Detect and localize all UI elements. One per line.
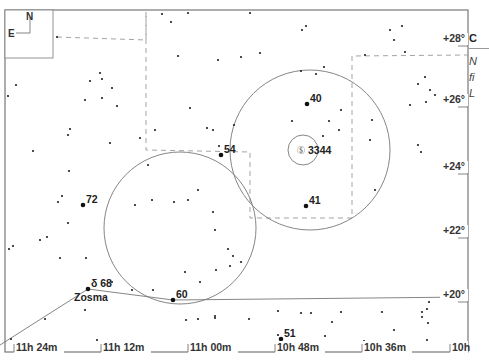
side-panel-title: C (469, 30, 489, 46)
star (417, 144, 419, 146)
star (259, 52, 261, 54)
star (305, 25, 307, 27)
star (434, 94, 436, 96)
star (12, 245, 14, 247)
star (68, 170, 70, 172)
star (393, 39, 395, 41)
star (322, 135, 324, 137)
star (46, 236, 48, 238)
star (240, 56, 242, 58)
star (233, 124, 235, 126)
star (131, 289, 133, 291)
star (84, 99, 86, 101)
x-tick-label: 11h 24m (16, 341, 57, 353)
star (56, 36, 58, 38)
side-panel-line: fi (469, 69, 489, 85)
star (101, 97, 103, 99)
compass-east: E (8, 28, 15, 39)
x-tick-label: 10h (452, 341, 470, 353)
star (340, 109, 342, 111)
x-tick-label: 11h 00m (190, 341, 231, 353)
star (227, 248, 229, 250)
star (67, 134, 69, 136)
star (173, 201, 175, 203)
star (184, 271, 186, 273)
star (154, 129, 156, 131)
star (381, 311, 383, 313)
star (96, 339, 98, 341)
star (417, 83, 419, 85)
star (84, 309, 86, 311)
star (338, 129, 340, 131)
labeled-object: Ⓢ3344 (297, 144, 332, 156)
star (310, 312, 312, 314)
star (212, 211, 214, 213)
star (61, 195, 63, 197)
star (300, 70, 302, 72)
side-panel: C N fi L (469, 30, 489, 101)
star (206, 127, 208, 129)
star (10, 338, 12, 340)
star (89, 80, 91, 82)
star (7, 95, 9, 97)
side-panel-line: L (469, 85, 489, 101)
x-tick-label: 11h 12m (103, 341, 144, 353)
star (69, 128, 71, 130)
object-label: 40 (310, 92, 322, 104)
star (15, 84, 17, 86)
star (331, 321, 333, 323)
compass-north: N (26, 11, 33, 22)
star (426, 308, 428, 310)
star (151, 199, 153, 201)
star (199, 281, 201, 283)
star (81, 203, 86, 208)
star (404, 51, 406, 53)
star (185, 319, 187, 321)
star (152, 289, 154, 291)
star (177, 55, 179, 57)
star (197, 189, 199, 191)
star (219, 153, 224, 158)
star (212, 129, 214, 131)
star (428, 301, 430, 303)
star (429, 89, 431, 91)
star (217, 59, 219, 61)
star (305, 102, 310, 107)
star (240, 261, 242, 263)
star (99, 72, 101, 74)
star (401, 25, 403, 27)
star (421, 311, 423, 313)
divider (469, 48, 489, 49)
y-tick-label: +22° (443, 224, 465, 236)
star (424, 76, 426, 78)
star (187, 12, 189, 14)
x-tick-label: 10h 36m (364, 341, 406, 353)
star (300, 312, 302, 314)
star (109, 142, 111, 144)
star (67, 222, 69, 224)
object-label: 3344 (308, 144, 332, 156)
y-tick-label: +20° (443, 288, 465, 300)
star (409, 104, 411, 106)
galaxy-icon: Ⓢ (297, 146, 305, 155)
star (249, 12, 251, 14)
star (291, 120, 293, 122)
star (171, 298, 176, 303)
x-tick-label: 10h 48m (277, 341, 319, 353)
star (59, 257, 61, 259)
object-label: 60 (176, 288, 188, 300)
star (425, 101, 427, 103)
side-panel-line: N (469, 53, 489, 69)
star (328, 120, 330, 122)
star (189, 107, 191, 109)
star (315, 73, 317, 75)
star (44, 318, 46, 320)
star (301, 29, 303, 31)
star (8, 248, 10, 250)
star (277, 334, 279, 336)
star (420, 151, 422, 153)
object-label: 51 (284, 327, 296, 339)
star (393, 329, 395, 331)
star (85, 257, 87, 259)
